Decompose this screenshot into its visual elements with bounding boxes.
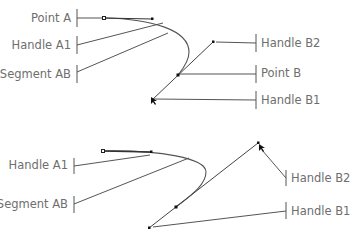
point-b-anchor[interactable] <box>177 74 180 77</box>
handle-b2-leader <box>216 42 256 43</box>
label-handle-b2: Handle B2 <box>291 171 350 185</box>
point-b-anchor[interactable] <box>175 206 178 209</box>
label-point-b: Point B <box>261 66 301 80</box>
handle-b1-point[interactable] <box>148 227 151 230</box>
handle-a1-line <box>103 151 151 152</box>
segment-ab-leader <box>77 33 168 72</box>
handle-a1-leader <box>77 23 163 45</box>
cursor-arrow-icon <box>259 144 265 152</box>
label-segment-ab: Segment AB <box>0 67 71 81</box>
handle-a1-leader <box>74 155 150 166</box>
handle-b-line <box>149 143 258 228</box>
handle-b1-leader <box>153 211 286 227</box>
handle-b2-point[interactable] <box>212 41 215 44</box>
handle-a1-point[interactable] <box>150 151 153 154</box>
handle-a1-line <box>104 18 152 19</box>
label-handle-b1: Handle B1 <box>291 204 350 218</box>
label-segment-ab: Segment AB <box>0 197 68 211</box>
handle-b2-leader <box>262 150 286 178</box>
label-point-a: Point A <box>31 11 71 25</box>
label-handle-b2: Handle B2 <box>261 36 320 50</box>
label-handle-b1: Handle B1 <box>261 93 320 107</box>
bottom-diagram <box>74 142 286 230</box>
handle-b-line <box>152 42 213 100</box>
handle-a1-point[interactable] <box>151 18 154 21</box>
segment-ab-leader <box>74 158 189 204</box>
point-a-anchor[interactable] <box>102 150 105 153</box>
point-a-anchor[interactable] <box>103 17 106 20</box>
top-diagram <box>77 9 256 109</box>
handle-b1-leader <box>154 99 256 100</box>
label-handle-a1: Handle A1 <box>12 38 71 52</box>
label-handle-a1: Handle A1 <box>9 158 68 172</box>
segment-ab-curve <box>104 18 189 75</box>
handle-b2-point[interactable] <box>257 142 260 145</box>
